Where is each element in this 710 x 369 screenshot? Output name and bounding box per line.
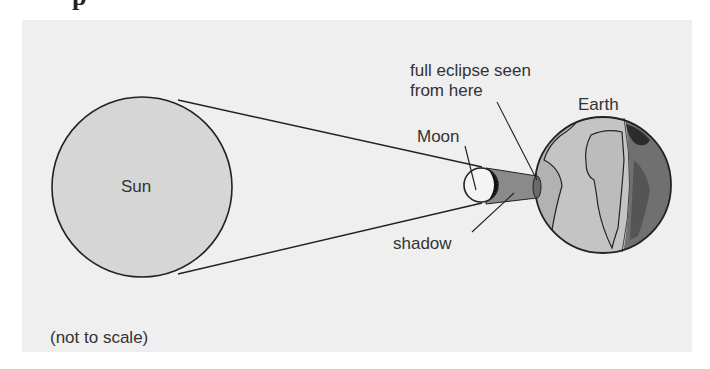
eclipse-diagram	[0, 0, 710, 369]
full-eclipse-label-line2: from here	[410, 82, 483, 99]
not-to-scale-note: (not to scale)	[50, 329, 148, 346]
shadow-label: shadow	[393, 235, 452, 252]
sun-label: Sun	[121, 178, 151, 195]
full-eclipse-leader-line	[497, 102, 537, 180]
earth-globe	[535, 110, 690, 262]
moon-label: Moon	[417, 128, 460, 145]
moon-circle	[464, 168, 498, 202]
full-eclipse-label-line1: full eclipse seen	[410, 62, 531, 79]
earth-label: Earth	[578, 96, 619, 113]
